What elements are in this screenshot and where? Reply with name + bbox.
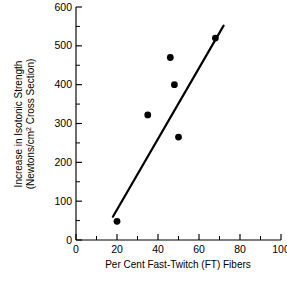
x-tick-label: 40 [152, 243, 164, 255]
data-point [171, 81, 178, 88]
data-point [114, 218, 121, 225]
x-axis-minor-ticks [97, 236, 261, 240]
y-tick-label: 0 [66, 234, 72, 246]
x-tick-label: 0 [73, 243, 79, 255]
y-tick-label: 100 [54, 195, 72, 207]
scatter-chart: 0100200300400500600 020406080100 Per Cen… [0, 0, 287, 284]
figure-container: 0100200300400500600 020406080100 Per Cen… [0, 0, 287, 284]
x-tick-label: 60 [193, 243, 205, 255]
y-axis-title-line2-pre: (Newtons/cm [25, 131, 36, 189]
y-axis-major-ticks [76, 7, 82, 240]
x-axis-tick-labels: 020406080100 [73, 243, 287, 255]
x-axis-title: Per Cent Fast-Twitch (FT) Fibers [105, 259, 251, 270]
y-axis-title-line2: (Newtons/cm2 Cross Section) [25, 59, 37, 190]
y-axis-title-line2-post: Cross Section) [25, 59, 36, 127]
y-tick-label: 200 [54, 156, 72, 168]
y-tick-label: 300 [54, 117, 72, 129]
regression-line [113, 26, 224, 217]
data-point [144, 112, 151, 119]
x-tick-label: 100 [272, 243, 287, 255]
data-point [212, 35, 219, 42]
y-tick-label: 600 [54, 1, 72, 13]
y-axis-tick-labels: 0100200300400500600 [54, 1, 72, 246]
y-tick-label: 400 [54, 78, 72, 90]
data-point [167, 54, 174, 61]
data-point [175, 134, 182, 141]
y-axis-title-line1: Increase in Isotonic Strength [13, 61, 24, 188]
x-axis-title-group: Per Cent Fast-Twitch (FT) Fibers [105, 259, 251, 270]
y-axis-title-group: Increase in Isotonic Strength (Newtons/c… [13, 59, 36, 190]
x-tick-label: 80 [234, 243, 246, 255]
y-tick-label: 500 [54, 39, 72, 51]
x-tick-label: 20 [111, 243, 123, 255]
